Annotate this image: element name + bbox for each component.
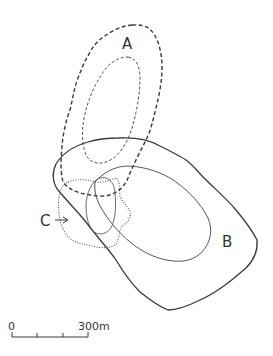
label-b: B [222,233,232,251]
contour-diagram: A B C 0 300m [0,0,273,356]
scale-end-label: 300m [78,320,110,333]
scale-start-label: 0 [8,320,15,333]
label-c-arrow-icon [55,217,68,223]
region-c-inner-contour [86,178,116,234]
scale-bar: 0 300m [8,320,110,337]
label-c: C [40,212,50,230]
region-a-inner-contour [82,57,140,163]
label-a: A [122,35,133,53]
region-b-outer-contour [53,138,257,310]
region-b-inner-contour [95,166,211,261]
region-a-outer-contour [61,25,162,196]
